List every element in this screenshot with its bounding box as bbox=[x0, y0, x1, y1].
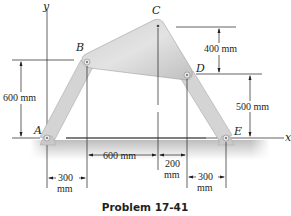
x-axis-label: x bbox=[285, 131, 291, 144]
svg-text:200: 200 bbox=[165, 158, 180, 169]
svg-text:600 mm: 600 mm bbox=[3, 92, 36, 103]
plate-bcd bbox=[82, 19, 192, 80]
link-ab bbox=[40, 60, 94, 141]
svg-text:400 mm: 400 mm bbox=[204, 43, 237, 54]
label-a: A bbox=[33, 124, 42, 137]
svg-text:500 mm: 500 mm bbox=[236, 101, 269, 112]
label-c: C bbox=[152, 4, 161, 17]
svg-text:mm: mm bbox=[164, 169, 180, 180]
link-de bbox=[181, 71, 232, 142]
dim-400: 400 mm bbox=[202, 28, 244, 73]
pin-c bbox=[157, 25, 160, 28]
figure-caption: Problem 17-41 bbox=[102, 201, 189, 213]
svg-text:300: 300 bbox=[58, 172, 73, 183]
label-e: E bbox=[233, 125, 242, 138]
svg-text:300: 300 bbox=[198, 171, 213, 182]
mechanism-diagram: x y A B C D E bbox=[0, 0, 291, 216]
ground bbox=[30, 140, 270, 160]
svg-text:mm: mm bbox=[197, 182, 213, 193]
label-d: D bbox=[195, 62, 205, 75]
svg-text:mm: mm bbox=[57, 183, 73, 194]
dim-bottom-300-right: 300 mm bbox=[188, 171, 225, 193]
svg-text:600 mm: 600 mm bbox=[103, 150, 136, 161]
label-b: B bbox=[75, 41, 84, 54]
y-axis-label: y bbox=[42, 0, 50, 13]
